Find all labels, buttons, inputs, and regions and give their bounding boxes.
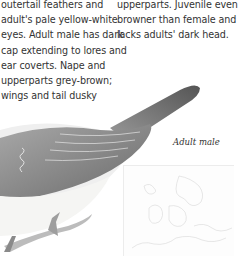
text-line: upperparts grey-brown; [1,73,127,88]
text-line: lacks adults' dark head. [117,27,238,42]
text-line: outertail feathers and [1,0,127,12]
text-line: adult's pale yellow-white [1,12,127,27]
range-map [123,165,234,256]
illustration-caption: Adult male [173,137,220,147]
species-description-left: outertail feathers and adult's pale yell… [1,0,127,103]
text-line: ear coverts. Nape and [1,58,127,73]
text-line: wings and tail dusky [1,88,127,103]
text-line: cap extending to lores and [1,43,127,58]
europe-outline-icon [124,166,234,256]
text-line: browner than female and [117,12,238,27]
text-line: upperparts. Juvenile even [117,0,238,12]
text-line: eyes. Adult male has dark [1,27,127,42]
species-description-right: upperparts. Juvenile even browner than f… [117,0,238,43]
